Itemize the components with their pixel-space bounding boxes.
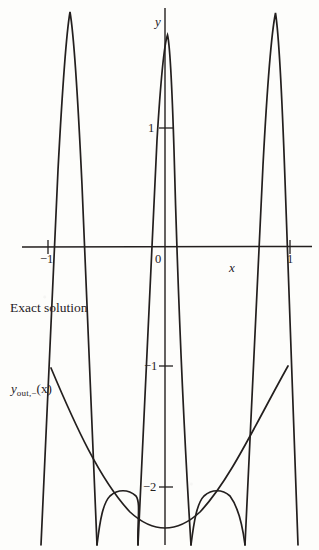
x-axis-label: x — [229, 261, 235, 274]
x-tick-label-zero: 0 — [155, 253, 161, 266]
exact-solution-spike-left — [41, 12, 97, 545]
exact-solution-trough-right — [191, 491, 245, 545]
exact-solution-spike-right — [245, 13, 298, 545]
outer-solution-label-arg: (x) — [37, 381, 52, 396]
y-tick-label-minus2: −2 — [143, 481, 156, 494]
x-axis — [22, 247, 312, 248]
outer-solution-label: yout,−(x) — [11, 382, 52, 398]
y-tick-label-minus1: −1 — [144, 360, 157, 373]
exact-solution-label: Exact solution — [10, 301, 88, 315]
outer-solution-label-subscript: out,− — [17, 388, 37, 398]
exact-solution-trough-left — [97, 491, 139, 545]
plot-figure — [0, 0, 319, 550]
y-tick-label-one: 1 — [148, 122, 154, 135]
x-tick-label-one: 1 — [287, 253, 293, 266]
x-tick-label-minus1: −1 — [40, 253, 53, 266]
y-axis-label: y — [155, 15, 161, 28]
